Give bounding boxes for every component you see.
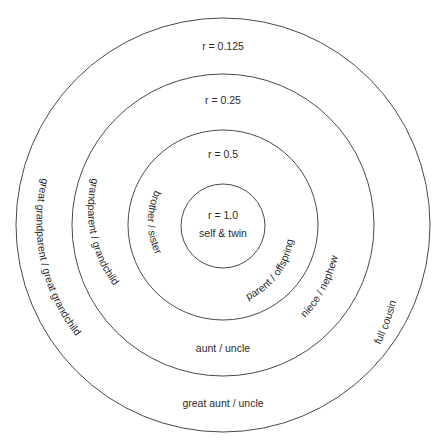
relation-niece-nephew: niece / nephew (298, 254, 340, 320)
relation-self-twin: self & twin (199, 227, 247, 239)
relation-niece-nephew-path: niece / nephew (298, 254, 340, 320)
relation-full-cousin: full cousin (371, 299, 398, 346)
relation-brother-sister-path: brother / sister (146, 189, 165, 256)
ring-025 (72, 74, 374, 376)
relation-full-cousin-path: full cousin (371, 299, 398, 346)
ring-inner-10 (181, 184, 265, 268)
relatedness-diagram: r = 0.125 r = 0.25 r = 0.5 r = 1.0 self … (0, 0, 445, 446)
ring-outer-0125 (16, 18, 430, 432)
relation-great-grandparent-path: great grandparent / great grandchild (34, 177, 84, 337)
coefficient-label-025: r = 0.25 (205, 94, 241, 106)
coefficient-label-10: r = 1.0 (208, 209, 238, 221)
coefficient-label-05: r = 0.5 (208, 148, 238, 160)
relation-grandparent-grandchild: grandparent / grandchild (86, 177, 122, 287)
relation-parent-offspring: parent / offspring (244, 238, 295, 302)
relation-aunt-uncle: aunt / uncle (196, 342, 250, 354)
relation-parent-offspring-path: parent / offspring (244, 238, 295, 302)
relation-great-grandparent: great grandparent / great grandchild (34, 177, 84, 337)
relation-grandparent-grandchild-path: grandparent / grandchild (86, 177, 122, 287)
relation-brother-sister: brother / sister (146, 189, 165, 256)
relation-great-aunt-uncle: great aunt / uncle (182, 397, 263, 409)
coefficient-label-0125: r = 0.125 (202, 40, 244, 52)
